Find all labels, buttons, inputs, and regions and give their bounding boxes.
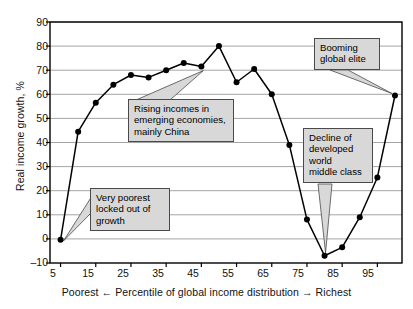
data-point-marker [357, 214, 363, 220]
data-point-marker [234, 79, 240, 85]
data-point-marker [110, 82, 116, 88]
annotation-rising-incomes: Rising incomes in emerging economies, ma… [128, 99, 234, 142]
data-point-marker [75, 129, 81, 135]
data-point-marker [304, 217, 310, 223]
data-point-marker [216, 43, 222, 49]
data-point-marker [374, 174, 380, 180]
annotation-leader [330, 70, 392, 94]
data-point-marker [163, 67, 169, 73]
data-point-marker [198, 64, 204, 70]
annotation-very-poorest: Very poorest locked out of growth [90, 188, 170, 231]
data-point-marker [181, 60, 187, 66]
data-point-marker [93, 100, 99, 106]
annotation-leader [64, 196, 92, 241]
chart-figure: Real income growth, % Poorest ← Percenti… [0, 0, 413, 309]
annotation-leader [136, 71, 203, 100]
data-point-marker [58, 237, 64, 243]
annotation-leader [318, 184, 332, 253]
data-point-marker [269, 91, 275, 97]
data-point-marker [128, 72, 134, 78]
data-point-marker [322, 253, 328, 259]
data-point-marker [251, 66, 257, 72]
annotation-decline-middle-class: Decline of developed world middle class [303, 128, 373, 183]
data-point-marker [286, 142, 292, 148]
data-point-marker [146, 74, 152, 80]
annotation-booming-elite: Booming global elite [314, 38, 380, 70]
data-point-marker [339, 244, 345, 250]
data-point-marker [392, 93, 398, 99]
